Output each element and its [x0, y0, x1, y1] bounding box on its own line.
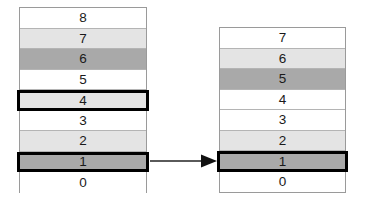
stack-cell-label: 1: [79, 155, 87, 169]
stack-cell-label: 6: [79, 52, 87, 66]
stack-cell-7: 7: [220, 28, 345, 49]
stack-cell-0: 0: [20, 172, 146, 193]
stack-cell-label: 2: [279, 134, 287, 148]
stack-cell-2: 2: [220, 131, 345, 152]
stack-cell-label: 3: [79, 114, 87, 128]
stack-cell-3: 3: [20, 111, 146, 132]
stack-cell-5: 5: [220, 69, 345, 90]
stack-cell-label: 0: [279, 175, 287, 189]
stack-cell-label: 0: [79, 176, 87, 190]
stack-cell-label: 3: [279, 113, 287, 127]
stack-cell-3: 3: [220, 110, 345, 131]
stack-cell-1: 1: [217, 151, 348, 172]
stack-cell-6: 6: [20, 49, 146, 70]
stack-cell-4: 4: [220, 90, 345, 111]
stack-cell-6: 6: [220, 49, 345, 70]
stack-cell-5: 5: [20, 70, 146, 91]
right-stack: 76543210: [219, 27, 346, 193]
stack-cell-label: 5: [79, 73, 87, 87]
stack-cell-label: 1: [279, 155, 287, 169]
stack-cell-label: 7: [79, 32, 87, 46]
stack-cell-label: 2: [79, 134, 87, 148]
stack-cell-4: 4: [17, 90, 149, 111]
left-stack: 876543210: [19, 7, 147, 193]
stack-cell-0: 0: [220, 172, 345, 193]
stack-cell-label: 5: [279, 72, 287, 86]
diagram-canvas: 876543210 76543210: [0, 0, 366, 202]
stack-cell-label: 4: [79, 94, 87, 108]
stack-cell-2: 2: [20, 131, 146, 152]
transition-arrow-icon: [150, 151, 218, 171]
stack-cell-1: 1: [17, 152, 149, 173]
stack-cell-label: 4: [279, 93, 287, 107]
stack-cell-7: 7: [20, 29, 146, 50]
stack-cell-label: 7: [279, 31, 287, 45]
stack-cell-label: 6: [279, 52, 287, 66]
stack-cell-8: 8: [20, 8, 146, 29]
stack-cell-label: 8: [79, 11, 87, 25]
